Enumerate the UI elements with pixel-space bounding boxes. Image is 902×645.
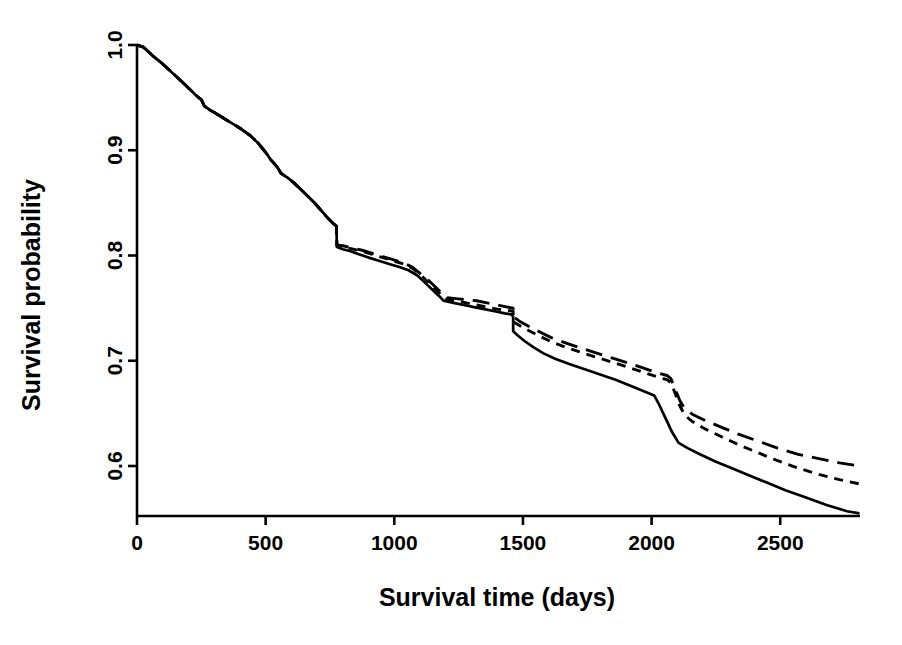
x-tick-label: 2500 <box>757 531 804 554</box>
series-solid-curve <box>137 45 859 513</box>
y-tick-label: 0.8 <box>103 241 126 271</box>
x-axis-ticks: 05001000150020002500 <box>131 516 803 554</box>
y-tick-label: 0.9 <box>103 136 126 165</box>
x-tick-label: 500 <box>248 531 283 554</box>
y-tick-label: 0.6 <box>103 451 126 480</box>
survival-curve-figure: 0.60.70.80.91.0 05001000150020002500 Sur… <box>0 0 902 645</box>
x-tick-label: 2000 <box>628 531 675 554</box>
y-axis-ticks: 0.60.70.80.91.0 <box>103 30 137 480</box>
curves-group <box>137 45 859 513</box>
series-short-dashed-curve <box>137 45 859 484</box>
x-tick-label: 1500 <box>500 531 547 554</box>
x-tick-label: 0 <box>131 531 143 554</box>
plot-canvas: 0.60.70.80.91.0 05001000150020002500 Sur… <box>0 0 902 645</box>
y-axis-title: Survival probability <box>17 179 45 411</box>
y-tick-label: 0.7 <box>103 346 126 375</box>
series-long-dashed-curve <box>137 45 859 466</box>
y-tick-label: 1.0 <box>103 30 126 59</box>
x-axis-title: Survival time (days) <box>379 583 615 611</box>
x-tick-label: 1000 <box>371 531 418 554</box>
